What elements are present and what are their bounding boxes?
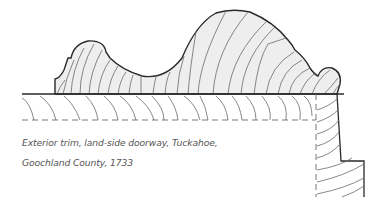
caption-line-1: Exterior trim, land-side doorway, Tuckah…: [22, 133, 322, 153]
caption-line-2: Goochland County, 1733: [22, 153, 322, 173]
moulding-profile-fill: [55, 10, 340, 94]
board-grain-lines: [22, 96, 312, 120]
jamb-outline: [337, 94, 364, 197]
moulding-profile-drawing: Exterior trim, land-side doorway, Tuckah…: [0, 0, 386, 207]
figure-caption: Exterior trim, land-side doorway, Tuckah…: [22, 133, 322, 173]
profile-svg: [0, 0, 386, 207]
